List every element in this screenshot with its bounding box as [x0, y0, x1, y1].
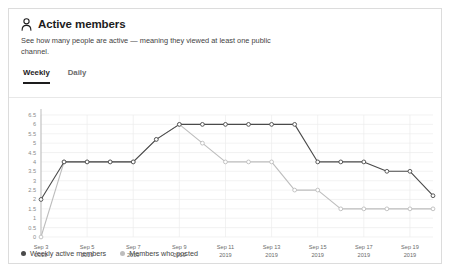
- legend-dot-icon: [120, 251, 125, 256]
- data-point-marker: [293, 122, 297, 126]
- title-row: Active members: [21, 17, 429, 31]
- chart-svg: 00.511.522.533.544.555.566.5 Sep 32019Se…: [9, 101, 441, 263]
- y-axis-labels: 00.511.522.533.544.555.566.5: [28, 112, 36, 240]
- chart-legend: Weekly active members Members who posted: [21, 249, 198, 258]
- data-point-marker: [316, 188, 320, 192]
- data-point-marker: [408, 169, 412, 173]
- legend-item-weekly-active: Weekly active members: [21, 249, 106, 258]
- legend-label: Weekly active members: [30, 249, 106, 258]
- x-tick-label-year: 2019: [358, 252, 370, 258]
- x-tick-label: Sep 11: [217, 244, 234, 250]
- active-members-chart: 00.511.522.533.544.555.566.5 Sep 32019Se…: [9, 101, 441, 263]
- active-members-panel: Active members See how many people are a…: [8, 8, 442, 264]
- y-tick-label: 2: [33, 196, 36, 202]
- x-tick-label-year: 2019: [219, 252, 231, 258]
- data-point-marker: [339, 207, 343, 211]
- x-tick-label: Sep 17: [355, 244, 373, 250]
- y-tick-label: 5: [33, 140, 36, 146]
- y-tick-label: 1: [33, 215, 36, 221]
- person-icon: [21, 18, 32, 31]
- legend-label: Members who posted: [129, 249, 198, 258]
- data-point-marker: [362, 160, 366, 164]
- data-point-marker: [108, 160, 112, 164]
- y-tick-label: 4.5: [28, 150, 36, 156]
- x-tick-label-year: 2019: [311, 252, 323, 258]
- data-point-marker: [247, 160, 251, 164]
- data-point-marker: [85, 160, 89, 164]
- page-title: Active members: [38, 17, 125, 31]
- data-point-marker: [431, 194, 435, 198]
- x-tick-label: Sep 19: [401, 244, 419, 250]
- x-tick-label: Sep 13: [263, 244, 281, 250]
- data-point-marker: [270, 160, 274, 164]
- data-point-marker: [385, 169, 389, 173]
- data-point-marker: [62, 160, 66, 164]
- y-tick-label: 5.5: [28, 131, 36, 137]
- y-tick-label: 0.5: [28, 225, 36, 231]
- y-tick-label: 1.5: [28, 206, 36, 212]
- data-point-marker: [224, 122, 228, 126]
- tab-divider: [9, 97, 441, 98]
- legend-item-members-posted: Members who posted: [120, 249, 198, 258]
- y-tick-label: 4: [33, 159, 36, 165]
- data-point-marker: [362, 207, 366, 211]
- data-point-marker: [339, 160, 343, 164]
- data-point-marker: [201, 122, 205, 126]
- data-point-marker: [431, 207, 435, 211]
- data-point-marker: [177, 122, 181, 126]
- y-tick-label: 3: [33, 178, 36, 184]
- panel-description: See how many people are active — meaning…: [21, 36, 271, 57]
- y-tick-label: 0: [33, 234, 36, 240]
- data-point-marker: [270, 122, 274, 126]
- tab-weekly[interactable]: Weekly: [23, 68, 50, 84]
- y-tick-label: 6: [33, 121, 36, 127]
- data-point-marker: [39, 198, 43, 202]
- tab-bar: Weekly Daily: [21, 68, 429, 84]
- data-point-marker: [408, 207, 412, 211]
- screenshot-root: Active members See how many people are a…: [0, 0, 452, 274]
- x-tick-label-year: 2019: [265, 252, 277, 258]
- data-point-marker: [39, 235, 43, 239]
- data-point-marker: [224, 160, 228, 164]
- grid-lines: [41, 115, 433, 237]
- data-point-marker: [293, 188, 297, 192]
- panel-header: Active members See how many people are a…: [9, 9, 441, 84]
- y-tick-label: 6.5: [28, 112, 36, 118]
- data-point-marker: [316, 160, 320, 164]
- data-point-marker: [385, 207, 389, 211]
- data-point-marker: [131, 160, 135, 164]
- x-tick-label-year: 2019: [404, 252, 416, 258]
- data-point-marker: [201, 141, 205, 145]
- y-tick-label: 3.5: [28, 168, 36, 174]
- legend-dot-icon: [21, 251, 26, 256]
- data-point-marker: [247, 122, 251, 126]
- data-point-marker: [154, 138, 158, 142]
- tab-daily[interactable]: Daily: [68, 68, 87, 84]
- y-tick-label: 2.5: [28, 187, 36, 193]
- x-tick-label: Sep 15: [309, 244, 327, 250]
